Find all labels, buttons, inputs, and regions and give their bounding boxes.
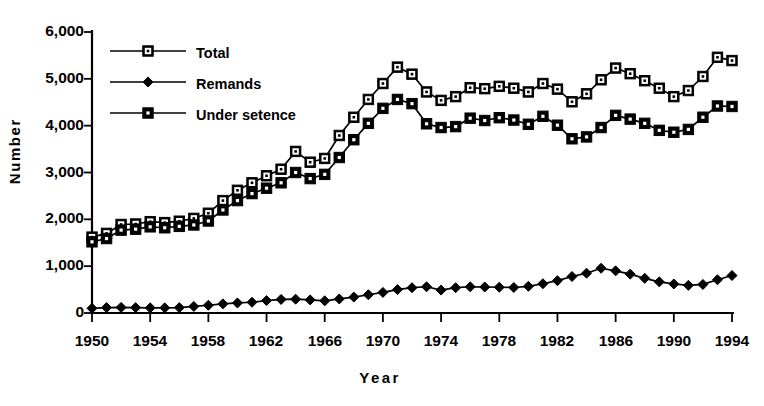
chart-figure: Number Year 0 1,000 2,000 3,000 4,000 5,… bbox=[0, 0, 764, 406]
chart-plot-area bbox=[0, 0, 764, 406]
legend-marker-total bbox=[110, 46, 186, 56]
series-total bbox=[87, 52, 737, 242]
series-under-setence bbox=[87, 94, 737, 247]
legend-markers bbox=[110, 46, 186, 118]
legend-marker-remands bbox=[110, 77, 186, 87]
series-remands bbox=[87, 263, 737, 313]
legend-marker-under-setence bbox=[110, 108, 186, 118]
data-series-layer bbox=[87, 52, 737, 313]
